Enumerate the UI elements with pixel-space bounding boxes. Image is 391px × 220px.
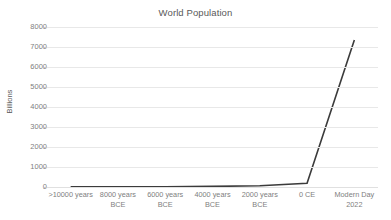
series-polyline <box>71 40 355 187</box>
y-tick-label: 3000 <box>3 123 47 131</box>
y-tick-label: 7000 <box>3 43 47 51</box>
y-tick-label: 8000 <box>3 23 47 31</box>
y-tick-label: 5000 <box>3 83 47 91</box>
y-tick-label: 2000 <box>3 143 47 151</box>
x-tick-label: 8000 yearsBCE <box>94 190 141 209</box>
x-axis-tick-labels: >10000 years8000 yearsBCE6000 yearsBCE40… <box>47 190 378 218</box>
gridline <box>47 107 378 108</box>
x-tick-label: 6000 yearsBCE <box>142 190 189 209</box>
x-tick-label: 4000 yearsBCE <box>189 190 236 209</box>
y-tick-label: 4000 <box>3 103 47 111</box>
y-tick-label: 1000 <box>3 163 47 171</box>
gridline <box>47 47 378 48</box>
x-tick-label: Modern Day2022 <box>331 190 378 209</box>
plot-area <box>47 27 378 187</box>
x-tick-label: 2000 yearsBCE <box>236 190 283 209</box>
gridline <box>47 187 378 188</box>
gridline <box>47 127 378 128</box>
chart-title: World Population <box>0 7 391 18</box>
y-axis-tick-labels: 800070006000500040003000200010000 <box>0 27 47 187</box>
chart-container: World Population Billions 80007000600050… <box>0 0 391 220</box>
gridline <box>47 27 378 28</box>
gridline <box>47 87 378 88</box>
gridline <box>47 167 378 168</box>
gridline <box>47 67 378 68</box>
gridline <box>47 147 378 148</box>
x-tick-label: 0 CE <box>283 190 330 200</box>
x-tick-label: >10000 years <box>47 190 94 200</box>
y-tick-label: 0 <box>3 183 47 191</box>
y-tick-label: 6000 <box>3 63 47 71</box>
